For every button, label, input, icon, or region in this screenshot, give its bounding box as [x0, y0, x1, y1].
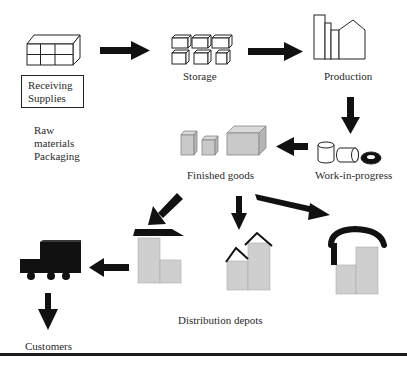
gray-boxes-icon: [181, 126, 266, 155]
arrow-wip-to-finished: [276, 137, 308, 156]
bottom-divider: [0, 353, 407, 356]
truck-icon: [20, 240, 81, 280]
receiving-supplies-box: Receiving Supplies: [21, 75, 84, 108]
customers-label: Customers: [25, 340, 72, 353]
receiving-label-line-1: Receiving: [28, 79, 83, 92]
arrow-finished-to-depot-left: [148, 193, 183, 225]
storage-label: Storage: [183, 70, 217, 83]
distribution-depots-label: Distribution depots: [178, 314, 263, 327]
arrow-production-to-wip: [341, 97, 360, 134]
arrow-finished-to-depot-right: [255, 194, 330, 220]
arrow-depot-to-truck: [89, 258, 129, 277]
arrow-storage-to-production: [248, 42, 303, 61]
depot-arched-roof-icon: [331, 229, 384, 294]
depot-flat-roof-icon: [133, 229, 184, 283]
crate-grid-icon: [27, 35, 80, 65]
work-in-progress-label: Work-in-progress: [315, 169, 392, 182]
factory-icon: [314, 15, 365, 59]
sublabel-materials: materials: [34, 137, 80, 150]
receiving-label-line-2: Supplies: [28, 92, 83, 105]
arrow-finished-to-depot-middle: [231, 196, 247, 230]
depot-pitched-roofs-icon: [226, 233, 272, 290]
production-label: Production: [324, 70, 372, 83]
arrow-receiving-to-storage: [100, 41, 150, 60]
stacked-boxes-icon: [172, 35, 232, 64]
arrow-truck-to-customers: [38, 293, 58, 330]
finished-goods-label: Finished goods: [187, 169, 254, 182]
cylinders-ring-icon: [318, 142, 381, 164]
sublabel-raw: Raw: [34, 124, 80, 137]
receiving-sublabel: Raw materials Packaging: [34, 124, 80, 163]
sublabel-packaging: Packaging: [34, 150, 80, 163]
